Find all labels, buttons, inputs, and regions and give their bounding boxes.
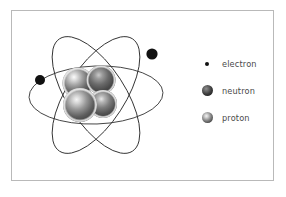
atom-figure: electron neutron proton	[0, 0, 286, 197]
neutron-sphere-icon	[196, 85, 218, 96]
legend-label-electron: electron	[222, 59, 257, 69]
legend-label-proton: proton	[222, 113, 250, 123]
electron-left	[35, 75, 45, 85]
nucleon-lower-left-rim	[63, 88, 97, 122]
nucleus	[63, 66, 118, 123]
electron-right	[146, 48, 157, 59]
legend-item-proton: proton	[196, 104, 272, 131]
legend-item-electron: electron	[196, 50, 272, 77]
legend-label-neutron: neutron	[222, 86, 255, 96]
electron-dot-icon	[196, 62, 218, 66]
proton-sphere-icon	[196, 112, 218, 123]
legend: electron neutron proton	[196, 50, 272, 131]
legend-item-neutron: neutron	[196, 77, 272, 104]
